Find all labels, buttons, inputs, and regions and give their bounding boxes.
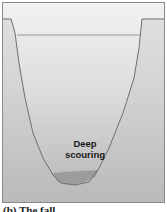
channel-cross-section (3, 3, 164, 202)
deep-scouring-label: Deep scouring (55, 138, 115, 160)
diagram-frame: Deep scouring (2, 2, 165, 203)
label-line-1: Deep (55, 138, 115, 149)
figure-caption: (b) The fall (3, 204, 55, 212)
label-line-2: scouring (55, 149, 115, 160)
